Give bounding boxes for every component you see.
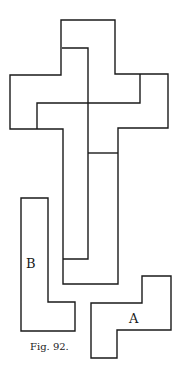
cross-inner-line-top (62, 48, 88, 259)
cross-outline (10, 20, 168, 284)
piece-b-label: B (26, 256, 36, 271)
figure-caption: Fig. 92. (30, 341, 69, 352)
piece-a-label: A (128, 311, 139, 326)
cross-dissection-figure: B A Fig. 92. (0, 0, 186, 384)
